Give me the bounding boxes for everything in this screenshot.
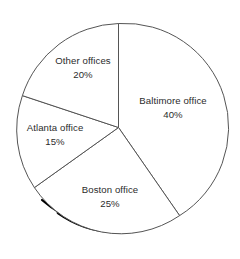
pie-label-baltimore-name: Baltimore office bbox=[131, 94, 215, 108]
pie-label-boston-name: Boston office bbox=[68, 183, 152, 197]
pie-label-other-name: Other offices bbox=[41, 54, 125, 68]
pie-label-other: Other offices 20% bbox=[41, 54, 125, 81]
pie-label-atlanta-value: 15% bbox=[13, 135, 97, 149]
pie-label-baltimore-value: 40% bbox=[131, 108, 215, 122]
pie-label-baltimore: Baltimore office 40% bbox=[131, 94, 215, 121]
pie-label-other-value: 20% bbox=[41, 68, 125, 82]
pie-label-atlanta: Atlanta office 15% bbox=[13, 121, 97, 148]
pie-label-boston-value: 25% bbox=[68, 197, 152, 211]
pie-label-atlanta-name: Atlanta office bbox=[13, 121, 97, 135]
pie-label-boston: Boston office 25% bbox=[68, 183, 152, 210]
pie-chart: Baltimore office 40% Boston office 25% A… bbox=[0, 0, 240, 259]
